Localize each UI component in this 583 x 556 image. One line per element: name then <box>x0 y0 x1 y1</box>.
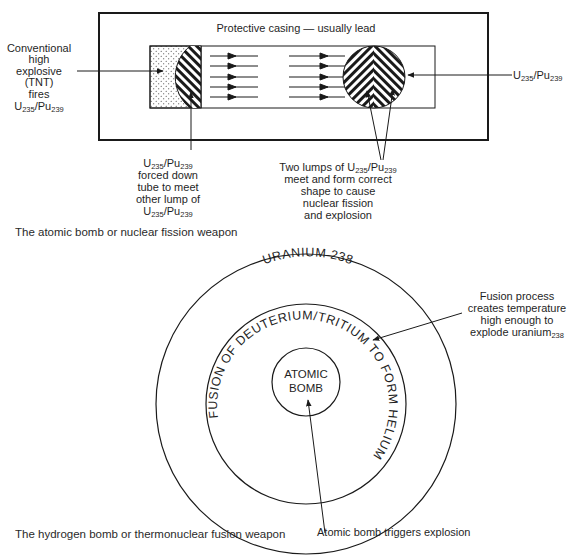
svg-text:tube to meet: tube to meet <box>137 181 198 193</box>
svg-text:Fusion process: Fusion process <box>480 290 555 302</box>
svg-text:creates temperature: creates temperature <box>468 302 566 314</box>
fusion-caption: The hydrogen bomb or thermonuclear fusio… <box>15 528 285 540</box>
svg-text:nuclear fission: nuclear fission <box>303 197 373 209</box>
svg-text:high enough to: high enough to <box>481 314 554 326</box>
uranium-238-label: URANIUM 238 <box>261 245 356 267</box>
svg-text:meet and form correct: meet and form correct <box>284 173 392 185</box>
trigger-label: Atomic bomb triggers explosion <box>317 526 470 538</box>
svg-text:other lump of: other lump of <box>136 193 201 205</box>
core-label-line1: ATOMIC <box>284 368 328 380</box>
fission-caption: The atomic bomb or nuclear fission weapo… <box>15 226 237 238</box>
svg-text:shape to cause: shape to cause <box>301 185 376 197</box>
svg-text:high: high <box>29 53 50 65</box>
svg-text:and explosion: and explosion <box>304 209 372 221</box>
fusion-process-label: Fusion process creates temperature high … <box>468 290 566 340</box>
casing-label: Protective casing — usually lead <box>217 22 376 34</box>
trigger-leader <box>308 400 325 533</box>
motion-arrows <box>210 53 345 100</box>
svg-text:forced down: forced down <box>138 169 198 181</box>
svg-text:(TNT): (TNT) <box>25 76 54 88</box>
svg-text:fires: fires <box>29 88 50 100</box>
svg-text:U235/Pu239: U235/Pu239 <box>143 205 193 219</box>
uranium-238-ring <box>156 254 456 554</box>
svg-text:U235/Pu239: U235/Pu239 <box>14 100 64 114</box>
fusion-ring <box>206 304 406 504</box>
projectile-label: U235/Pu239 forced down tube to meet othe… <box>136 157 201 219</box>
core-label-line2: BOMB <box>289 382 323 394</box>
right-lump-label: U235/Pu239 <box>513 69 563 83</box>
target-lump <box>343 46 405 108</box>
fusion-diagram: URANIUM 238 FUSION OF DEUTERIUM/TRITIUM … <box>15 245 566 554</box>
fission-diagram: Protective casing — usually lead <box>7 13 563 238</box>
critical-mass-label: Two lumps of U235/Pu239 meet and form co… <box>279 161 396 221</box>
fusion-process-leader <box>373 313 462 340</box>
svg-text:explode uranium238: explode uranium238 <box>470 326 564 340</box>
diagram-canvas: Protective casing — usually lead <box>0 0 583 556</box>
tnt-label: Conventional high explosive (TNT) fires … <box>7 42 71 114</box>
